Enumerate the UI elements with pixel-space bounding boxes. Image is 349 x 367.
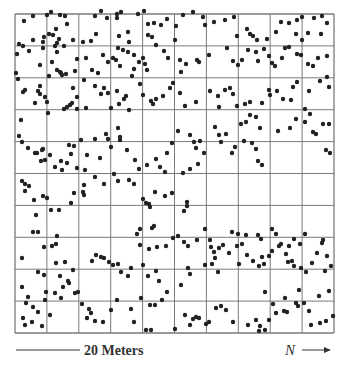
data-point [283,46,287,50]
data-point [36,310,40,314]
data-point [223,88,227,92]
data-point [270,249,274,253]
data-point [151,102,155,106]
data-point [38,63,42,67]
data-point [141,197,145,201]
data-point [186,266,190,270]
data-point [233,145,237,149]
data-point [219,304,223,308]
data-point [130,74,134,78]
data-point [43,298,47,302]
data-point [116,126,120,130]
data-point [93,319,97,323]
data-point [203,263,207,267]
data-point [153,303,157,307]
data-point [41,147,45,151]
data-point [81,190,85,194]
data-point [197,316,201,320]
data-point [154,97,158,101]
data-point [216,94,220,98]
data-point [207,320,211,324]
data-point [245,253,249,257]
data-point [89,311,93,315]
data-point [237,262,241,266]
data-point [75,166,79,170]
data-point [104,132,108,136]
data-point [115,298,119,302]
data-point [254,115,258,119]
data-point [213,125,217,129]
data-point [90,259,94,263]
data-point [50,60,54,64]
data-point [299,266,303,270]
data-point [327,85,331,89]
data-point [179,70,183,74]
data-point [300,15,304,19]
data-point [27,184,31,188]
data-point [66,279,70,283]
data-point [42,273,46,277]
data-point [217,105,221,109]
data-point [71,86,75,90]
north-label: N [285,342,295,359]
data-point [283,296,287,300]
data-point [139,296,143,300]
data-point [270,227,274,231]
data-point [267,318,271,322]
data-point [101,320,105,324]
data-point [246,48,250,52]
data-point [287,244,291,248]
data-point [137,60,141,64]
data-point [303,232,307,236]
data-point [251,259,255,263]
data-point [170,141,174,145]
data-point [16,77,20,81]
data-point [228,86,232,90]
data-point [183,313,187,317]
data-point [192,140,196,144]
data-point [259,237,263,241]
data-point [240,242,244,246]
data-point [256,59,260,63]
data-point [133,158,137,162]
data-point [102,86,106,90]
data-point [31,305,35,309]
data-point [148,205,152,209]
data-point [22,19,26,23]
data-point [297,288,301,292]
data-point [154,43,158,47]
data-point [83,168,87,172]
data-point [258,126,262,130]
data-point [276,129,280,133]
data-point [277,244,281,248]
data-point [125,148,129,152]
data-point [239,122,243,126]
data-point [256,233,260,237]
data-point [243,102,247,106]
data-point [54,27,58,31]
data-point [26,146,30,150]
data-point [45,13,49,17]
data-point [163,170,167,174]
data-point [117,102,121,106]
data-point [72,191,76,195]
data-point [98,156,102,160]
data-point [185,204,189,208]
data-point [219,140,223,144]
data-point [132,53,136,57]
data-point [54,261,58,265]
data-point [280,56,284,60]
data-point [295,80,299,84]
data-point [327,122,331,126]
data-point [323,269,327,273]
data-point [81,40,85,44]
data-point [38,84,42,88]
data-point [325,75,329,79]
data-point [21,44,25,48]
north-arrow-head-icon [324,347,331,353]
data-point [318,79,322,83]
data-point [178,91,182,95]
data-point [127,108,131,112]
data-point [248,100,252,104]
data-point [325,21,329,25]
